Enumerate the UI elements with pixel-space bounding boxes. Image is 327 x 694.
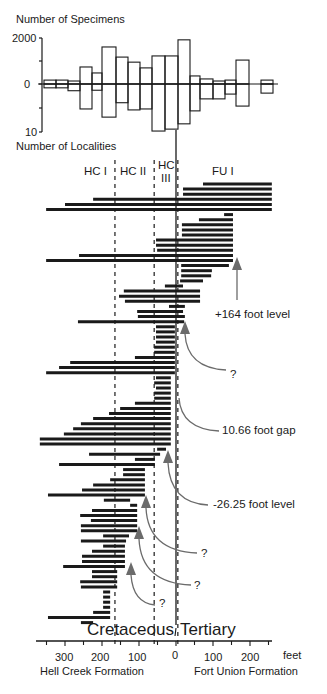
annotation-question-1: ? (230, 368, 236, 380)
specimens-bar (152, 56, 165, 84)
zone-label-fu1: FU I (212, 165, 234, 177)
localities-bar (236, 84, 249, 106)
specimens-bar (140, 68, 152, 84)
x-tick-200-right: 200 (241, 651, 259, 663)
tick-10: 10 (25, 126, 37, 138)
localities-axis-label: Number of Localities (16, 140, 116, 152)
zone-label-hc2: HC II (120, 165, 146, 177)
specimens-bar (80, 67, 92, 84)
zone-label-hc1: HC I (84, 165, 107, 177)
localities-bar (80, 84, 92, 109)
localities-bar (102, 84, 116, 117)
localities-bar (190, 84, 200, 111)
localities-bar (213, 84, 225, 99)
specimens-bar (200, 79, 213, 84)
localities-bar (165, 84, 178, 129)
cretaceous-label: Cretaceous (87, 620, 174, 640)
annotation-question-2: ? (201, 547, 207, 559)
specimens-bar (178, 40, 190, 84)
specimens-bar (128, 62, 140, 84)
x-tick-0: 0 (172, 649, 178, 661)
localities-bar (68, 84, 80, 91)
specimens-bar (236, 60, 249, 84)
annotation-164-foot-level: +164 foot level (215, 308, 290, 320)
annotation-question-4: ? (159, 597, 165, 609)
localities-bar (152, 84, 165, 131)
specimens-bar (102, 47, 116, 84)
tertiary-label: Tertiary (180, 620, 236, 640)
localities-bar (261, 84, 273, 93)
x-unit-feet: feet (283, 649, 301, 661)
localities-bar (178, 84, 190, 124)
kt-boundary-chart (0, 0, 327, 694)
annotation-question-3: ? (194, 579, 200, 591)
specimen-locality-histogram (38, 38, 278, 132)
fort-union-formation-label: Fort Union Formation (194, 665, 298, 677)
hell-creek-formation-label: Hell Creek Formation (40, 665, 144, 677)
x-tick-100-left: 100 (128, 651, 146, 663)
specimens-bar (116, 57, 128, 84)
zone-label-hc3-bottom: III (161, 172, 171, 184)
specimens-bar (190, 76, 200, 84)
x-tick-200-left: 200 (91, 651, 109, 663)
stratigraphic-range-bars (40, 184, 272, 623)
tick-0: 0 (24, 78, 30, 90)
annotation-10-66-foot-gap: 10.66 foot gap (222, 424, 296, 436)
specimens-axis-label: Number of Specimens (16, 13, 125, 25)
localities-bar (200, 84, 213, 99)
tick-2000: 2000 (12, 32, 36, 44)
annotation-26-25-foot-level: -26.25 foot level (213, 498, 295, 510)
specimens-bar (92, 73, 102, 84)
x-tick-100-right: 100 (204, 651, 222, 663)
localities-bar (140, 84, 152, 109)
x-tick-300: 300 (55, 651, 73, 663)
localities-bar (116, 84, 128, 103)
specimens-bar (165, 56, 178, 84)
localities-bar (128, 84, 140, 110)
localities-bar (92, 84, 102, 90)
localities-bar (225, 84, 236, 94)
zone-label-hc3-top: HC (158, 159, 175, 171)
